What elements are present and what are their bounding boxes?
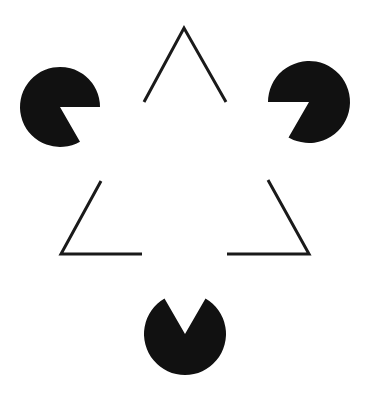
right-corner [227,180,309,254]
outline-triangle-corners [61,28,309,254]
kanizsa-figure [0,0,367,397]
pacmen-group [20,61,350,375]
bottom-pacman-icon [144,298,226,375]
left-pacman-icon [20,67,100,147]
top-corner [144,28,226,102]
left-corner [61,181,142,254]
right-pacman-icon [268,61,350,143]
